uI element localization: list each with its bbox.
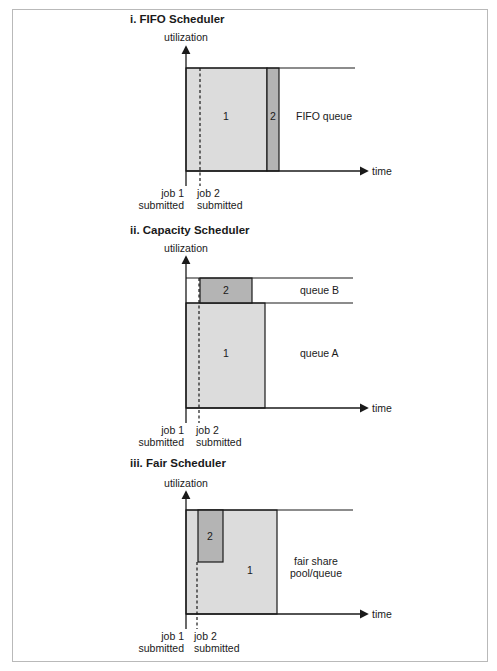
queue-label-line1: fair share — [294, 555, 338, 567]
job1-submitted-line1: job 1 — [160, 424, 184, 436]
job2-label: 2 — [223, 284, 229, 296]
queue-label-line2: pool/queue — [290, 567, 342, 579]
job1-submitted-line2: submitted — [138, 199, 184, 211]
y-axis-label: utilization — [164, 242, 208, 254]
x-axis-label: time — [372, 402, 392, 414]
job2-submitted-line2: submitted — [196, 436, 242, 448]
job1-submitted-line2: submitted — [138, 642, 184, 654]
panel-capacity: ii. Capacity Scheduler utilization 2 1 q… — [130, 224, 392, 448]
job1-submitted-line1: job 1 — [160, 630, 184, 642]
job1-submitted-line1: job 1 — [160, 187, 184, 199]
job2-submitted-line2: submitted — [194, 642, 240, 654]
x-axis-label: time — [372, 608, 392, 620]
job2-submitted-line1: job 2 — [193, 630, 217, 642]
job1-label: 1 — [247, 564, 253, 576]
job2-submitted-line2: submitted — [197, 199, 243, 211]
queue-a-label: queue A — [300, 347, 339, 359]
job1-label: 1 — [223, 347, 229, 359]
job2-submitted-line1: job 2 — [196, 187, 220, 199]
panel-fifo: i. FIFO Scheduler utilization 1 2 FIFO q… — [130, 13, 392, 211]
panel-title: i. FIFO Scheduler — [130, 13, 225, 25]
job1-submitted-line2: submitted — [138, 436, 184, 448]
job2-submitted-line1: job 2 — [195, 424, 219, 436]
scheduler-diagram: i. FIFO Scheduler utilization 1 2 FIFO q… — [0, 0, 497, 671]
queue-label: FIFO queue — [296, 110, 352, 122]
job2-label: 2 — [270, 110, 276, 122]
panel-fair: iii. Fair Scheduler utilization 2 1 fair… — [130, 457, 392, 654]
queue-b-label: queue B — [300, 284, 339, 296]
y-axis-label: utilization — [164, 477, 208, 489]
panel-title: iii. Fair Scheduler — [130, 457, 226, 469]
y-axis-label: utilization — [164, 31, 208, 43]
job1-label: 1 — [223, 110, 229, 122]
job2-label: 2 — [207, 530, 213, 542]
panel-title: ii. Capacity Scheduler — [130, 224, 250, 236]
x-axis-label: time — [372, 165, 392, 177]
